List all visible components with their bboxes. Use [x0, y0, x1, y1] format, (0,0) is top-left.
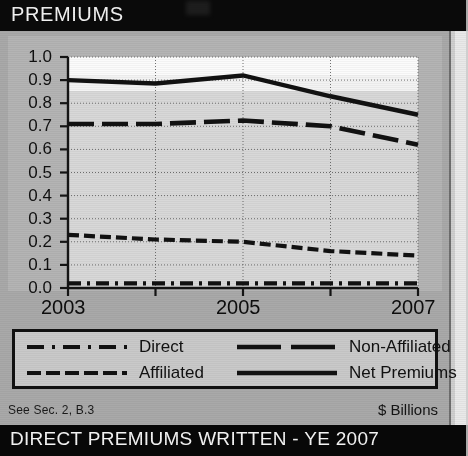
- x-tick-label: 2007: [391, 297, 436, 317]
- net-premiums-line-swatch: [233, 360, 341, 386]
- units-label: $ Billions: [378, 401, 438, 418]
- x-axis-ticks: [68, 288, 418, 296]
- y-tick-label: 0.2: [8, 233, 52, 250]
- gridlines: [68, 57, 418, 265]
- legend-label-net-premiums: Net Premiums: [349, 360, 457, 386]
- x-tick-label: 2005: [216, 297, 261, 317]
- y-tick-label: 0.8: [8, 94, 52, 111]
- y-tick-label: 0.4: [8, 187, 52, 204]
- non-affiliated-line-swatch: [233, 334, 341, 360]
- source-note: See Sec. 2, B.3: [8, 403, 94, 417]
- legend-label-affiliated: Affiliated: [139, 360, 204, 386]
- y-tick-label: 0.0: [8, 279, 52, 296]
- affiliated-line-swatch: [23, 360, 131, 386]
- y-tick-label: 0.5: [8, 164, 52, 181]
- legend-label-direct: Direct: [139, 334, 183, 360]
- y-tick-label: 0.7: [8, 117, 52, 134]
- footer-bar: DIRECT PREMIUMS WRITTEN - YE 2007: [0, 425, 466, 456]
- x-tick-label: 2003: [41, 297, 86, 317]
- y-tick-label: 1.0: [8, 48, 52, 65]
- y-tick-label: 0.1: [8, 256, 52, 273]
- y-tick-label: 0.9: [8, 71, 52, 88]
- chart-legend: Direct Non-Affiliated Affiliated Net Pre…: [12, 329, 438, 389]
- y-tick-label: 0.3: [8, 210, 52, 227]
- y-tick-label: 0.6: [8, 140, 52, 157]
- footer-title: DIRECT PREMIUMS WRITTEN - YE 2007: [10, 428, 379, 450]
- legend-label-non-affiliated: Non-Affiliated: [349, 334, 451, 360]
- direct-line-swatch: [23, 334, 131, 360]
